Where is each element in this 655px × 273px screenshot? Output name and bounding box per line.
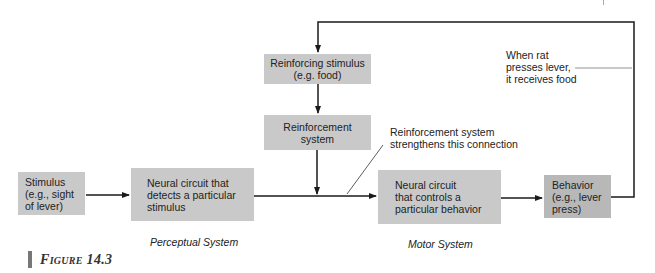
annotation-text: presses lever, [506, 61, 577, 73]
node-text: stimulus [147, 201, 254, 213]
node-text: (e.g., lever [552, 191, 611, 203]
node-reinforcing-stimulus: Reinforcing stimulus (e.g. food) [264, 54, 371, 84]
node-text: (e.g., sight [25, 188, 85, 200]
node-text: particular behavior [395, 203, 501, 215]
node-text: press) [552, 203, 611, 215]
node-stimulus: Stimulus (e.g., sight of lever) [18, 172, 85, 215]
annotation-strengthens: Reinforcement system strengthens this co… [390, 126, 518, 150]
node-text: Behavior [552, 179, 611, 191]
node-behavior: Behavior (e.g., lever press) [544, 175, 611, 218]
figure-caption: Figure 14.3 [40, 252, 112, 268]
node-text: Stimulus [25, 176, 85, 188]
annotation-text: Reinforcement system [390, 126, 518, 138]
label-motor-system: Motor System [408, 238, 473, 250]
node-text: of lever) [25, 200, 85, 212]
node-text: Reinforcing stimulus [264, 57, 371, 69]
node-control-circuit: Neural circuit that controls a particula… [378, 170, 501, 224]
node-reinforcement-system: Reinforcement system [264, 115, 371, 150]
caption-bar [28, 251, 32, 268]
node-detect-circuit: Neural circuit that detects a particular… [131, 168, 254, 221]
node-text: detects a particular [147, 189, 254, 201]
node-text: Neural circuit [395, 179, 501, 191]
annotation-text: When rat [506, 49, 577, 61]
annotation-text: strengthens this connection [390, 138, 518, 150]
node-text: system [264, 133, 371, 145]
node-text: Reinforcement [264, 121, 371, 133]
annotation-text: it receives food [506, 73, 577, 85]
annotation-feedback: When rat presses lever, it receives food [506, 49, 577, 85]
label-perceptual-system: Perceptual System [150, 236, 238, 248]
node-text: that controls a [395, 191, 501, 203]
node-text: Neural circuit that [147, 177, 254, 189]
node-text: (e.g. food) [264, 69, 371, 81]
